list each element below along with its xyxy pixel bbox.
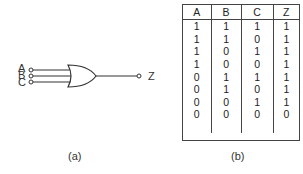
- cell: 1: [241, 45, 273, 58]
- header-b: B: [211, 5, 241, 20]
- cell: 0: [241, 58, 273, 71]
- table-header-row: A B C Z: [183, 5, 299, 20]
- cell: 1: [273, 70, 299, 83]
- input-label-c: C: [18, 77, 26, 88]
- cell: 1: [183, 58, 211, 71]
- cell: 1: [183, 45, 211, 58]
- cell: 1: [273, 33, 299, 46]
- caption-a: (a): [68, 150, 81, 162]
- output-label-z: Z: [148, 71, 155, 82]
- cell: 0: [211, 96, 241, 109]
- cell: 1: [211, 20, 241, 33]
- or-gate-symbol: [68, 65, 96, 87]
- cell: 1: [273, 20, 299, 33]
- cell: 0: [183, 83, 211, 96]
- cell: 1: [183, 33, 211, 46]
- input-a-terminal: [29, 68, 33, 72]
- cell: 0: [273, 108, 299, 121]
- table-row: 1011: [183, 45, 299, 58]
- table-row: 1111: [183, 20, 299, 33]
- cell: 0: [241, 33, 273, 46]
- caption-b: (b): [231, 150, 244, 162]
- output-terminal: [137, 74, 141, 78]
- cell: 0: [211, 108, 241, 121]
- cell: 1: [273, 96, 299, 109]
- cell: 1: [183, 20, 211, 33]
- table-row: 0101: [183, 83, 299, 96]
- cell: 0: [211, 45, 241, 58]
- cell: 1: [273, 58, 299, 71]
- cell: 1: [273, 83, 299, 96]
- cell: 0: [241, 83, 273, 96]
- truth-table: A B C Z 1111 1101 1011 1001 0111 0101 00…: [182, 4, 300, 141]
- table-row: 0000: [183, 108, 299, 121]
- table-row: 1101: [183, 33, 299, 46]
- cell: 1: [211, 83, 241, 96]
- table-row: 0111: [183, 70, 299, 83]
- cell: 1: [241, 70, 273, 83]
- cell: 0: [211, 58, 241, 71]
- input-b-terminal: [29, 74, 33, 78]
- header-z: Z: [273, 5, 299, 20]
- cell: 1: [273, 45, 299, 58]
- cell: 1: [211, 70, 241, 83]
- cell: 0: [241, 108, 273, 121]
- header-a: A: [183, 5, 211, 20]
- cell: 0: [183, 108, 211, 121]
- cell: 0: [183, 96, 211, 109]
- input-c-terminal: [29, 80, 33, 84]
- table-padding-row: [183, 121, 299, 133]
- table-row: 1001: [183, 58, 299, 71]
- header-c: C: [241, 5, 273, 20]
- cell: 1: [211, 33, 241, 46]
- cell: 0: [183, 70, 211, 83]
- table-row: 0011: [183, 96, 299, 109]
- cell: 1: [241, 96, 273, 109]
- cell: 1: [241, 20, 273, 33]
